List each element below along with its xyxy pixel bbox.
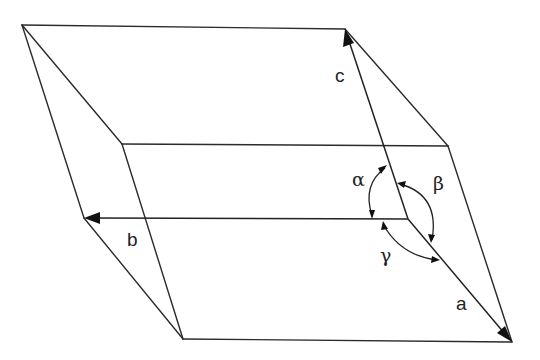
label-b: b <box>127 229 138 250</box>
label-gamma: γ <box>380 244 391 266</box>
edge-top-right <box>345 29 448 146</box>
angle-alpha-arc <box>369 165 387 219</box>
vector-c <box>343 29 408 219</box>
edge-bottom <box>183 339 512 342</box>
arrowhead-b-icon <box>84 212 100 224</box>
unit-cell-diagram: a b c α β γ <box>0 0 540 360</box>
label-c: c <box>335 65 345 86</box>
angle-beta-arc <box>397 181 435 243</box>
edge-middle <box>122 144 448 146</box>
edge-top-left <box>22 25 122 144</box>
edge-left-outer <box>22 25 84 218</box>
label-a: a <box>456 293 467 314</box>
edge-top-back <box>22 25 345 29</box>
label-alpha: α <box>352 168 365 190</box>
vector-b <box>84 212 408 224</box>
vector-a <box>408 219 512 342</box>
label-beta: β <box>433 172 444 194</box>
